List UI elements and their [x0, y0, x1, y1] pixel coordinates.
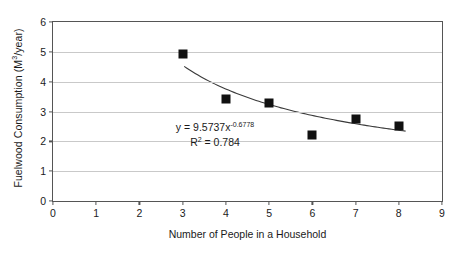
y-tick-mark: [49, 141, 53, 142]
x-tick-label: 5: [266, 207, 272, 219]
x-tick-label: 7: [353, 207, 359, 219]
gridline-y: [53, 112, 442, 113]
y-tick-mark: [49, 81, 53, 82]
x-tick-label: 9: [439, 207, 445, 219]
data-point-marker: [265, 99, 274, 108]
x-tick-mark: [269, 201, 270, 205]
x-axis-title: Number of People in a Household: [52, 228, 443, 240]
y-axis-title-superscript: 3: [12, 55, 19, 59]
r-squared-text: R2 = 0.784: [120, 135, 310, 150]
gridline-y: [53, 171, 442, 172]
x-tick-mark: [96, 201, 97, 205]
data-point-marker: [394, 121, 403, 130]
x-tick-label: 3: [180, 207, 186, 219]
chart-figure: Fuelwood Consumption (M3/year) 012345601…: [0, 0, 470, 259]
r-squared-prefix: R: [190, 136, 198, 148]
x-tick-mark: [441, 201, 442, 205]
gridline-y: [53, 52, 442, 53]
x-tick-label: 4: [223, 207, 229, 219]
y-tick-mark: [49, 21, 53, 22]
r-squared-value: = 0.784: [202, 136, 240, 148]
equation-prefix: y = 9.5737x: [176, 121, 231, 133]
plot-area: 01234560123456789: [52, 21, 443, 202]
y-axis-title-suffix: /year): [12, 28, 24, 55]
y-tick-mark: [49, 171, 53, 172]
x-tick-mark: [312, 201, 313, 205]
gridline-y: [53, 82, 442, 83]
x-tick-mark: [225, 201, 226, 205]
y-tick-mark: [49, 51, 53, 52]
x-tick-mark: [139, 201, 140, 205]
x-tick-mark: [182, 201, 183, 205]
x-tick-label: 2: [137, 207, 143, 219]
x-tick-label: 8: [396, 207, 402, 219]
equation-exponent: -0.6778: [230, 121, 254, 128]
x-tick-mark: [355, 201, 356, 205]
x-tick-mark: [52, 201, 53, 205]
x-tick-mark: [398, 201, 399, 205]
data-point-marker: [221, 94, 230, 103]
y-axis-title-container: Fuelwood Consumption (M3/year): [0, 0, 36, 215]
equation-text: y = 9.5737x-0.6778: [120, 120, 310, 135]
y-tick-mark: [49, 111, 53, 112]
x-tick-label: 0: [50, 207, 56, 219]
data-point-marker: [351, 114, 360, 123]
y-axis-title: Fuelwood Consumption (M3/year): [12, 28, 24, 187]
data-point-marker: [178, 49, 187, 58]
y-axis-title-prefix: Fuelwood Consumption (M: [12, 59, 24, 187]
regression-annotation: y = 9.5737x-0.6778 R2 = 0.784: [120, 120, 310, 150]
x-tick-label: 1: [93, 207, 99, 219]
x-tick-label: 6: [309, 207, 315, 219]
